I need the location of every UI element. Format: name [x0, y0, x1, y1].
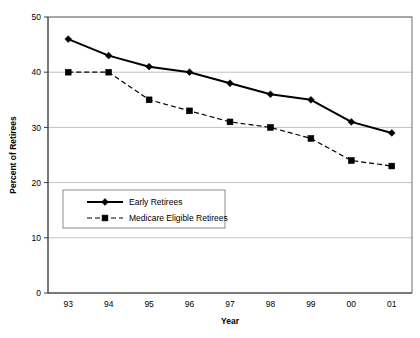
legend: Early RetireesMedicare Eligible Retirees [63, 190, 228, 228]
legend-label-2: Medicare Eligible Retirees [129, 213, 228, 223]
x-tick-label-93: 93 [63, 299, 73, 309]
x-tick-label-99: 99 [306, 299, 316, 309]
x-tick-label-95: 95 [144, 299, 154, 309]
x-tick-label-96: 96 [185, 299, 195, 309]
y-tick-label-0: 0 [36, 288, 41, 298]
x-tick-label-98: 98 [266, 299, 276, 309]
plot-frame [48, 17, 412, 293]
y-axis-title: Percent of Retirees [8, 116, 18, 194]
data-point-1-98 [267, 91, 274, 98]
data-point-1-93 [65, 36, 72, 43]
line-chart: 01020304050Percent of Retirees9394959697… [0, 0, 420, 338]
x-tick-label-94: 94 [104, 299, 114, 309]
x-axis: 939495969798990001 [48, 293, 412, 309]
data-point-2-94 [106, 69, 112, 75]
data-point-2-01 [389, 163, 395, 169]
data-point-2-99 [308, 136, 314, 142]
x-tick-label-00: 00 [347, 299, 357, 309]
data-point-1-01 [388, 130, 395, 137]
y-tick-label-50: 50 [32, 12, 42, 22]
data-point-1-96 [186, 69, 193, 76]
data-point-2-97 [227, 119, 233, 125]
x-tick-label-01: 01 [387, 299, 397, 309]
data-point-1-95 [146, 63, 153, 70]
chart-container: 01020304050Percent of Retirees9394959697… [0, 0, 420, 338]
data-point-1-97 [227, 80, 234, 87]
y-tick-label-10: 10 [32, 233, 42, 243]
y-axis: 01020304050 [32, 12, 48, 298]
x-tick-label-97: 97 [225, 299, 235, 309]
data-point-2-96 [187, 108, 193, 114]
y-tick-label-20: 20 [32, 178, 42, 188]
data-point-2-00 [348, 158, 354, 164]
x-axis-title: Year [221, 316, 240, 326]
data-point-2-93 [65, 69, 71, 75]
data-point-2-95 [146, 97, 152, 103]
legend-label-1: Early Retirees [129, 197, 182, 207]
y-tick-label-30: 30 [32, 123, 42, 133]
y-tick-label-40: 40 [32, 67, 42, 77]
legend-marker-2 [102, 215, 108, 221]
data-point-1-94 [105, 52, 112, 59]
data-point-2-98 [268, 125, 274, 131]
